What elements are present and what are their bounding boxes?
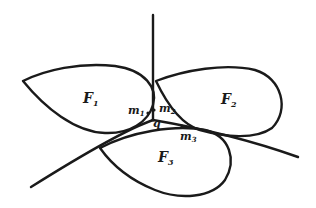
label-m2: m2	[159, 102, 176, 116]
label-m1: m1	[128, 104, 145, 118]
diagram-canvas: F1 F2 F3 m1 m2 m3 q	[0, 0, 316, 208]
point-m3	[180, 124, 183, 127]
label-F1: F1	[82, 90, 99, 108]
region-F2-boundary	[156, 67, 282, 136]
label-m3: m3	[180, 130, 197, 144]
label-F2: F2	[220, 91, 237, 109]
label-F3: F3	[157, 149, 174, 167]
point-m2	[152, 108, 155, 111]
label-q: q	[153, 117, 161, 130]
ray-lower-right	[153, 120, 298, 157]
point-m1	[146, 111, 149, 114]
